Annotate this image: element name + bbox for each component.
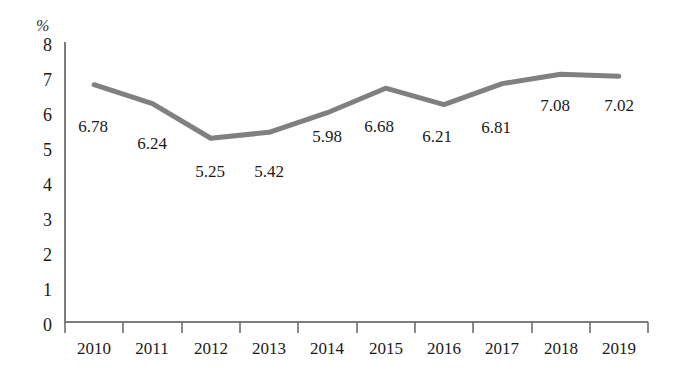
data-label-2017: 6.81 — [469, 119, 523, 136]
x-tick-label-2010: 2010 — [65, 340, 123, 357]
data-label-2018: 7.08 — [528, 97, 582, 114]
x-tick-label-2017: 2017 — [473, 340, 531, 357]
x-tick-label-2016: 2016 — [415, 340, 473, 357]
data-label-2011: 6.24 — [125, 135, 179, 152]
data-label-2012: 5.25 — [183, 163, 237, 180]
data-label-2010: 6.78 — [66, 118, 120, 135]
data-label-2015: 6.68 — [352, 118, 406, 135]
x-tick-label-2015: 2015 — [357, 340, 415, 357]
data-label-2014: 5.98 — [300, 128, 354, 145]
line-chart: % 8 7 6 5 4 3 2 1 0 6.78 6.24 5.25 5.42 … — [0, 0, 675, 381]
data-label-2013: 5.42 — [242, 163, 296, 180]
plot-area — [0, 0, 675, 381]
x-tick-label-2011: 2011 — [123, 340, 181, 357]
x-tick-label-2018: 2018 — [532, 340, 590, 357]
x-tick-label-2014: 2014 — [298, 340, 356, 357]
data-label-2019: 7.02 — [592, 97, 646, 114]
x-tick-label-2019: 2019 — [590, 340, 648, 357]
data-label-2016: 6.21 — [410, 128, 464, 145]
x-tick-label-2013: 2013 — [240, 340, 298, 357]
x-tick-label-2012: 2012 — [182, 340, 240, 357]
